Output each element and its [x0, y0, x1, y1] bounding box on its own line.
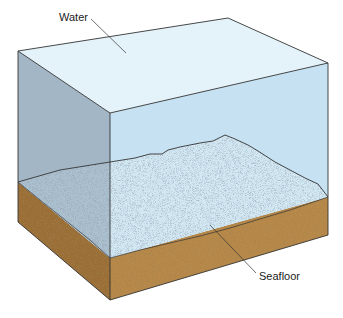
water-label: Water	[59, 11, 88, 23]
seafloor-label: Seafloor	[259, 270, 300, 282]
